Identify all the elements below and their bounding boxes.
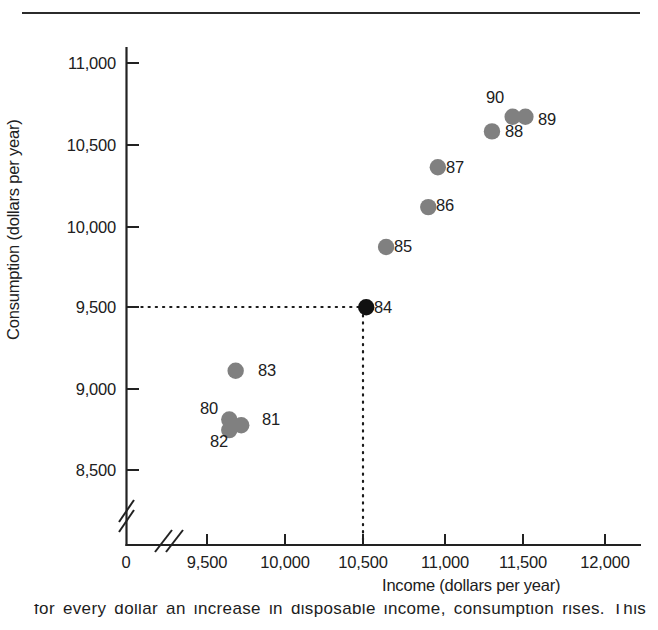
y-tick-label-9000: 9,000 <box>8 380 116 399</box>
point-label-84: 84 <box>374 298 392 317</box>
x-axis-ticks <box>207 534 605 545</box>
x-tick-label-11500: 11,500 <box>499 553 547 572</box>
point-label-82: 82 <box>210 432 228 451</box>
x-tick-label-0: 0 <box>122 553 131 572</box>
x-tick-label-10500: 10,500 <box>338 553 387 572</box>
data-point-83 <box>227 362 243 378</box>
data-point-84 <box>358 299 374 315</box>
point-label-89: 89 <box>538 110 556 129</box>
caption-text: for every dollar an increase in disposab… <box>34 604 646 619</box>
x-tick-label-11000: 11,000 <box>421 553 469 572</box>
point-label-83: 83 <box>258 361 276 380</box>
x-tick-label-10000: 10,000 <box>260 553 309 572</box>
y-tick-label-11000: 11,000 <box>8 54 116 73</box>
point-label-87: 87 <box>446 158 464 177</box>
data-point-88 <box>484 123 500 139</box>
point-label-81: 81 <box>262 410 280 429</box>
point-label-86: 86 <box>436 196 454 215</box>
point-label-88: 88 <box>505 122 523 141</box>
x-tick-label-9500: 9,500 <box>187 553 227 572</box>
data-point-85 <box>378 239 394 255</box>
y-axis-ticks <box>126 63 139 470</box>
y-tick-label-10500: 10,500 <box>8 136 116 155</box>
data-point-86 <box>420 199 436 215</box>
data-point-87 <box>430 159 446 175</box>
caption-strip: for every dollar an increase in disposab… <box>0 604 658 630</box>
y-tick-label-9500: 9,500 <box>8 298 116 317</box>
point-label-85: 85 <box>394 237 412 256</box>
point-label-90: 90 <box>486 88 504 107</box>
data-point-markers <box>221 109 534 439</box>
x-axis-break-icon <box>155 530 183 552</box>
x-axis-title: Income (dollars per year) <box>382 576 560 595</box>
y-tick-label-10000: 10,000 <box>8 218 116 237</box>
y-axis-title: Consumption (dollars per year) <box>4 119 23 340</box>
point-label-80: 80 <box>200 399 218 418</box>
scatter-plot-figure: 11,000 10,500 10,000 9,500 9,000 8,500 0… <box>0 0 658 630</box>
y-tick-label-8500: 8,500 <box>8 461 116 480</box>
x-tick-label-12000: 12,000 <box>580 553 629 572</box>
